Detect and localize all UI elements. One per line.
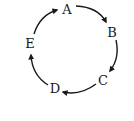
edge-d-to-e [31,55,48,85]
edge-c-to-d [63,84,96,93]
edge-b-to-c [110,40,117,71]
node-a: A [62,3,71,16]
node-c: C [98,74,108,87]
node-e: E [25,37,35,50]
edge-e-to-a [34,10,57,34]
cycle-diagram [0,0,134,121]
edge-a-to-b [76,6,106,22]
node-d: D [50,82,60,95]
node-b: B [107,26,117,39]
